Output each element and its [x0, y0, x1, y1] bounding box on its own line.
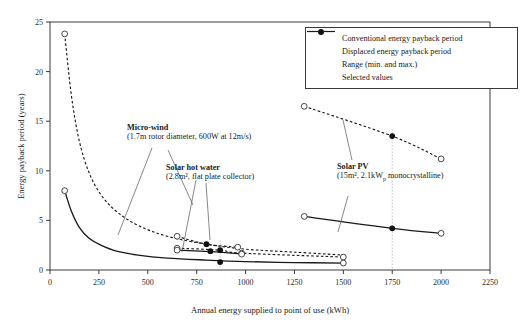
legend-item-conventional: Conventional energy payback period: [308, 32, 513, 45]
legend-item-selected: Selected values: [308, 71, 513, 84]
legend-label-conventional: Conventional energy payback period: [342, 34, 463, 43]
y-axis-tick-label: 20: [35, 68, 43, 77]
annotation-micro-wind-heading: Micro-wind: [127, 123, 251, 132]
x-axis-tick-label: 2250: [482, 278, 498, 287]
range-marker-solar-hot-water: [174, 247, 180, 253]
legend-item-range: Range (min. and max.): [308, 58, 513, 71]
annotation-solar-pv-sub-post: monocrystalline): [386, 171, 444, 180]
chart-figure: 0250500750100012501500175020002250051015…: [0, 0, 525, 329]
annotation-leader-line: [182, 180, 196, 252]
range-marker-solar-pv: [301, 214, 307, 220]
selected-marker-solar-hot-water: [207, 248, 213, 254]
annotation-solar-pv-heading: Solar PV: [337, 162, 443, 171]
annotation-solar-pv-sub-pre: (15m², 2.1kW: [337, 171, 383, 180]
annotation-solar-pv: Solar PV (15m², 2.1kWp monocrystalline): [337, 162, 443, 183]
x-axis-tick-label: 0: [48, 278, 52, 287]
annotation-solar-hot-water-sub: (2.8m², flat plate collector): [166, 172, 254, 181]
y-axis-tick-label: 0: [39, 266, 43, 275]
x-axis-tick-label: 1000: [238, 278, 254, 287]
annotation-micro-wind: Micro-wind (1.7m rotor diameter, 600W at…: [127, 123, 251, 141]
selected-marker-solar-hot-water: [204, 241, 210, 247]
annotation-solar-pv-sub: (15m², 2.1kWp monocrystalline): [337, 171, 443, 182]
legend-label-selected: Selected values: [342, 73, 393, 82]
annotation-solar-hot-water: Solar hot water (2.8m², flat plate colle…: [166, 163, 254, 181]
series-curve-solar-pv-dashed: [304, 106, 441, 159]
selected-marker-solar-hot-water: [217, 247, 223, 253]
x-axis-tick-label: 1250: [286, 278, 302, 287]
range-marker-solar-hot-water: [235, 244, 241, 250]
series-curve-solar-hot-water-dashed: [177, 248, 343, 257]
x-axis-tick-label: 750: [191, 278, 203, 287]
range-marker-micro-wind: [340, 254, 346, 260]
range-marker-solar-pv: [301, 103, 307, 109]
selected-marker-solar-hot-water: [217, 259, 223, 265]
series-curve-solar-pv-solid: [304, 216, 441, 233]
range-marker-solar-pv: [438, 230, 444, 236]
legend-label-displaced: Displaced energy payback period: [342, 47, 451, 56]
x-axis-tick-label: 1750: [384, 278, 400, 287]
selected-marker-solar-pv: [389, 225, 395, 231]
x-axis-tick-label: 250: [93, 278, 105, 287]
annotation-micro-wind-sub: (1.7m rotor diameter, 600W at 12m/s): [127, 132, 251, 141]
range-marker-solar-hot-water: [239, 251, 245, 257]
legend-label-range: Range (min. and max.): [342, 60, 417, 69]
selected-marker-solar-pv: [389, 133, 395, 139]
y-axis-label: Energy payback period (years): [16, 93, 26, 199]
annotation-solar-hot-water-heading: Solar hot water: [166, 163, 254, 172]
annotation-leader-line: [118, 148, 152, 235]
annotation-leader-line: [206, 183, 210, 240]
range-marker-solar-hot-water: [174, 233, 180, 239]
chart-legend: Conventional energy payback period Displ…: [305, 27, 518, 89]
y-axis-tick-label: 15: [35, 117, 43, 126]
y-axis-tick-label: 10: [35, 167, 43, 176]
x-axis-tick-label: 1500: [335, 278, 351, 287]
legend-item-displaced: Displaced energy payback period: [308, 45, 513, 58]
series-curve-micro-wind-dashed: [65, 34, 344, 255]
x-axis-tick-label: 500: [142, 278, 154, 287]
x-axis-tick-label: 2000: [433, 278, 449, 287]
annotation-leader-line: [343, 120, 352, 160]
range-marker-micro-wind: [62, 31, 68, 37]
annotation-leader-line: [338, 196, 348, 232]
range-marker-micro-wind: [340, 260, 346, 266]
x-axis-label: Annual energy supplied to point of use (…: [191, 305, 349, 315]
y-axis-tick-label: 25: [35, 18, 43, 27]
y-axis-tick-label: 5: [39, 216, 43, 225]
range-marker-solar-pv: [438, 156, 444, 162]
range-marker-micro-wind: [62, 188, 68, 194]
